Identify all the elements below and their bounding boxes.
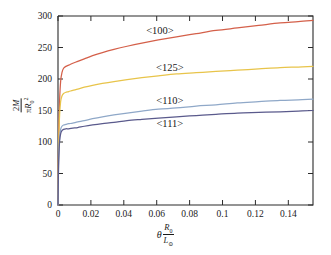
y-tick-label: 100 bbox=[38, 137, 53, 147]
plot-frame bbox=[58, 16, 313, 205]
y-tick-label: 50 bbox=[43, 169, 53, 179]
y-axis-ticks: 050100150200250300 bbox=[38, 11, 313, 210]
x-tick-label: 0.02 bbox=[83, 209, 100, 219]
chart-figure: 050100150200250300 00.020.040.060.080.10… bbox=[0, 0, 331, 255]
x-tick-label: 0.08 bbox=[181, 209, 198, 219]
series-line-111 bbox=[58, 111, 313, 206]
series-lines bbox=[58, 20, 313, 205]
x-tick-label: 0.14 bbox=[280, 209, 297, 219]
x-tick-label: 0.04 bbox=[115, 209, 132, 219]
y-tick-label: 150 bbox=[38, 106, 53, 116]
y-tick-label: 250 bbox=[38, 43, 53, 53]
x-tick-label: 0.1 bbox=[217, 209, 229, 219]
annotation-111: <111> bbox=[156, 118, 183, 129]
annotation-100: <100> bbox=[146, 25, 174, 36]
y-tick-label: 300 bbox=[38, 11, 53, 21]
x-tick-label: 0 bbox=[56, 209, 61, 219]
y-tick-label: 0 bbox=[47, 200, 52, 210]
annotation-110: <110> bbox=[156, 95, 183, 106]
y-tick-label: 200 bbox=[38, 74, 53, 84]
series-line-125 bbox=[58, 66, 313, 205]
annotation-125: <125> bbox=[156, 62, 184, 73]
series-line-110 bbox=[58, 99, 313, 205]
series-line-100 bbox=[58, 20, 313, 205]
x-tick-label: 0.12 bbox=[247, 209, 264, 219]
x-tick-label: 0.06 bbox=[148, 209, 165, 219]
plot-canvas: 050100150200250300 00.020.040.060.080.10… bbox=[0, 0, 331, 255]
